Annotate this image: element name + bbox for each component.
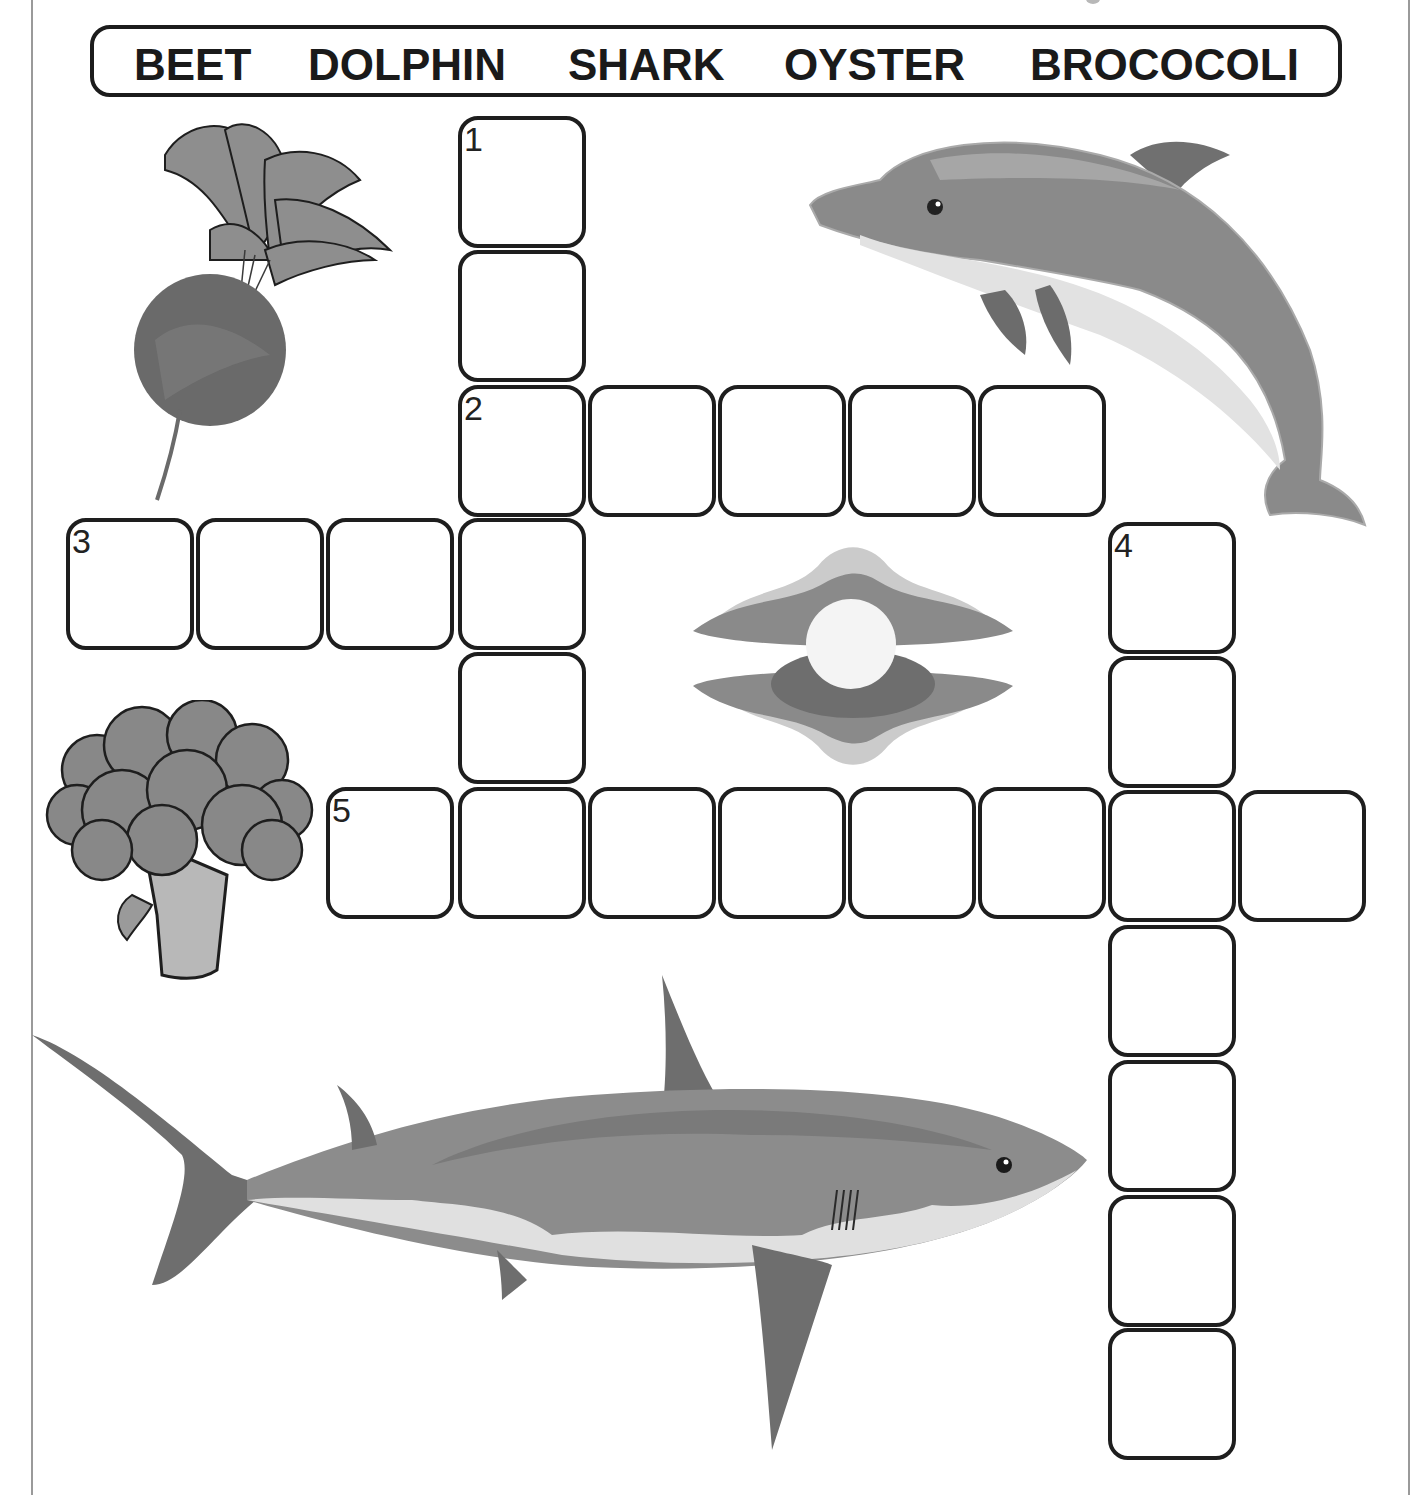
crossword-cell[interactable] <box>978 787 1106 919</box>
word-bank-word: BEET <box>134 39 251 91</box>
crossword-cell[interactable] <box>196 518 324 650</box>
crossword-cell[interactable] <box>1108 925 1236 1057</box>
oyster-icon <box>688 536 1018 776</box>
crossword-cell[interactable] <box>458 518 586 650</box>
crossword-cell[interactable]: 3 <box>66 518 194 650</box>
crossword-cell[interactable] <box>458 652 586 784</box>
crossword-cell[interactable] <box>718 385 846 517</box>
crossword-cell[interactable] <box>458 787 586 919</box>
word-bank-word: SHARK <box>568 39 724 91</box>
clue-number: 4 <box>1114 528 1133 562</box>
crossword-cell[interactable] <box>588 385 716 517</box>
crossword-cell[interactable]: 4 <box>1108 522 1236 654</box>
crossword-cell[interactable] <box>848 385 976 517</box>
decorative-dot <box>1086 0 1100 4</box>
crossword-cell[interactable] <box>458 250 586 382</box>
crossword-cell[interactable] <box>978 385 1106 517</box>
word-bank-word: BROCOCOLI <box>1030 39 1299 91</box>
page-border-right <box>1408 0 1410 1495</box>
clue-number: 2 <box>464 391 483 425</box>
crossword-cell[interactable] <box>1108 1195 1236 1327</box>
word-bank: BEET DOLPHIN SHARK OYSTER BROCOCOLI <box>90 25 1342 97</box>
crossword-cell[interactable] <box>326 518 454 650</box>
clue-number: 1 <box>464 122 483 156</box>
crossword-cell[interactable] <box>588 787 716 919</box>
crossword-cell[interactable] <box>1108 790 1236 922</box>
crossword-cell[interactable] <box>1108 656 1236 788</box>
crossword-cell[interactable] <box>1108 1328 1236 1460</box>
crossword-cell[interactable]: 5 <box>326 787 454 919</box>
crossword-cell[interactable] <box>718 787 846 919</box>
broccoli-icon <box>42 700 317 985</box>
beet-icon <box>125 110 405 510</box>
crossword-cell[interactable] <box>1238 790 1366 922</box>
crossword-cell[interactable]: 2 <box>458 385 586 517</box>
crossword-cell[interactable] <box>1108 1060 1236 1192</box>
clue-number: 3 <box>72 524 91 558</box>
clue-number: 5 <box>332 793 351 827</box>
word-bank-word: OYSTER <box>784 39 965 91</box>
word-bank-word: DOLPHIN <box>308 39 506 91</box>
crossword-cell[interactable] <box>848 787 976 919</box>
shark-icon <box>32 965 1092 1455</box>
crossword-cell[interactable]: 1 <box>458 116 586 248</box>
